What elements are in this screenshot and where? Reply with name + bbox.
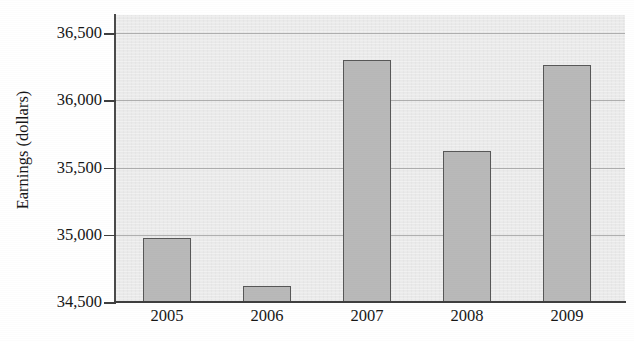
x-axis-tick-label: 2006 [217, 306, 317, 326]
gridline [115, 33, 625, 34]
x-axis-tick-label: 2005 [117, 306, 217, 326]
x-axis-tick-label: 2007 [317, 306, 417, 326]
y-axis-title: Earnings (dollars) [8, 0, 38, 300]
y-axis-title-text: Earnings (dollars) [13, 91, 33, 210]
bar-chart-figure: Earnings (dollars) 34,50035,00035,50036,… [0, 0, 634, 341]
bar [443, 151, 491, 302]
x-axis-tick-label: 2008 [417, 306, 517, 326]
bar [543, 65, 591, 302]
plot-area [115, 15, 625, 302]
y-axis-tick-mark [104, 100, 116, 102]
bar [243, 286, 291, 302]
y-axis-line [114, 14, 116, 303]
y-axis-tick-mark [104, 168, 116, 170]
x-axis-line [114, 301, 626, 303]
bar [343, 60, 391, 302]
x-axis-tick-labels: 20052006200720082009 [115, 306, 625, 336]
y-axis-tick-label: 35,000 [36, 227, 102, 244]
y-axis-tick-mark [104, 235, 116, 237]
bar [143, 238, 191, 302]
x-axis-tick-label: 2009 [517, 306, 617, 326]
y-axis-tick-label: 36,500 [36, 25, 102, 42]
y-axis-tick-mark [104, 302, 116, 304]
y-axis-tick-labels: 34,50035,00035,50036,00036,500 [36, 0, 102, 341]
y-axis-tick-label: 36,000 [36, 92, 102, 109]
y-axis-tick-label: 35,500 [36, 160, 102, 177]
y-axis-tick-mark [104, 33, 116, 35]
y-axis-tick-label: 34,500 [36, 294, 102, 311]
